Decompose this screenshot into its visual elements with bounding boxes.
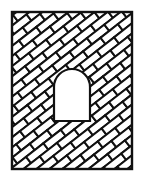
wall-diagram [0, 0, 145, 181]
arched-opening [54, 69, 90, 121]
